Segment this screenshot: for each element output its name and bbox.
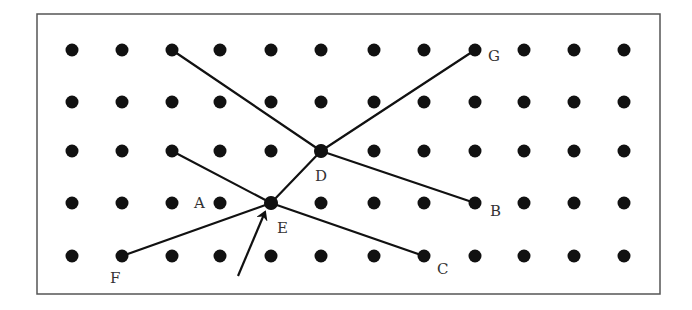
grid-dot bbox=[368, 197, 381, 210]
grid-dot bbox=[518, 250, 531, 263]
grid-dot bbox=[214, 197, 227, 210]
grid-dot bbox=[568, 250, 581, 263]
grid-dot bbox=[418, 96, 431, 109]
line-segment bbox=[271, 151, 321, 203]
grid-dot bbox=[568, 96, 581, 109]
grid-dot bbox=[265, 96, 278, 109]
junction-point-e bbox=[264, 196, 278, 210]
grid-dot bbox=[315, 197, 328, 210]
grid-dot bbox=[214, 44, 227, 57]
label-c: C bbox=[437, 260, 448, 278]
grid-dot bbox=[166, 44, 179, 57]
line-segment bbox=[321, 50, 475, 151]
junction-point-d bbox=[314, 144, 328, 158]
label-f: F bbox=[110, 269, 120, 287]
grid-dot bbox=[166, 197, 179, 210]
grid-dot bbox=[618, 250, 631, 263]
line-segment bbox=[321, 151, 475, 203]
grid-dot bbox=[368, 96, 381, 109]
grid-dot bbox=[568, 44, 581, 57]
grid-dot bbox=[469, 96, 482, 109]
grid-dot bbox=[315, 44, 328, 57]
grid-dot bbox=[116, 197, 129, 210]
grid-dot bbox=[315, 250, 328, 263]
grid-dot bbox=[166, 250, 179, 263]
grid-dot bbox=[214, 145, 227, 158]
grid-dot bbox=[518, 145, 531, 158]
grid-dot bbox=[568, 197, 581, 210]
grid-dot bbox=[166, 145, 179, 158]
label-b: B bbox=[490, 202, 501, 220]
grid-dot bbox=[618, 197, 631, 210]
grid-dot bbox=[518, 197, 531, 210]
grid-dot bbox=[66, 44, 79, 57]
grid-dot bbox=[418, 145, 431, 158]
grid-dot bbox=[265, 145, 278, 158]
grid-dot bbox=[66, 197, 79, 210]
label-a: A bbox=[193, 194, 205, 212]
label-d: D bbox=[315, 167, 327, 185]
grid-dot bbox=[418, 250, 431, 263]
grid-dot bbox=[214, 250, 227, 263]
grid-dot bbox=[469, 44, 482, 57]
grid-dot bbox=[214, 96, 227, 109]
grid-dot bbox=[66, 250, 79, 263]
grid-dot bbox=[368, 250, 381, 263]
grid-dot bbox=[618, 44, 631, 57]
grid-dot bbox=[568, 145, 581, 158]
grid-dot bbox=[469, 145, 482, 158]
grid-dot bbox=[518, 96, 531, 109]
grid-dot bbox=[315, 96, 328, 109]
grid-dot bbox=[66, 96, 79, 109]
grid-dot bbox=[518, 44, 531, 57]
line-segment bbox=[172, 151, 271, 203]
grid-dot bbox=[618, 145, 631, 158]
arrow-pointing-to-e bbox=[238, 212, 265, 276]
line-segment bbox=[172, 50, 321, 151]
grid-dot bbox=[469, 197, 482, 210]
label-e: E bbox=[277, 219, 288, 237]
grid-dot bbox=[618, 96, 631, 109]
grid-dot bbox=[166, 96, 179, 109]
grid-dot bbox=[368, 145, 381, 158]
grid-dot bbox=[418, 197, 431, 210]
grid-dot bbox=[265, 44, 278, 57]
grid-dot bbox=[116, 44, 129, 57]
grid-dot bbox=[265, 250, 278, 263]
grid-dot bbox=[66, 145, 79, 158]
grid-dot bbox=[116, 96, 129, 109]
grid-dot bbox=[368, 44, 381, 57]
grid-dot bbox=[469, 250, 482, 263]
grid-dot bbox=[116, 145, 129, 158]
grid-dot bbox=[418, 44, 431, 57]
grid-dot bbox=[116, 250, 129, 263]
label-g: G bbox=[488, 47, 500, 65]
dot-grid-diagram: GDBAECF bbox=[0, 0, 692, 310]
line-segment bbox=[271, 203, 424, 256]
